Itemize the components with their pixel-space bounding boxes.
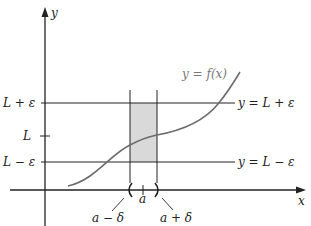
curve-label: y = f(x): [181, 67, 227, 81]
x-mark-label-a: a: [139, 192, 146, 206]
line-label-L-minus-epsilon: y = L − ε: [237, 155, 295, 169]
y-tick-label-L-minus-epsilon: L − ε: [2, 155, 35, 169]
y-tick-label-L: L: [22, 129, 31, 143]
y-axis-arrow-icon: [42, 7, 49, 17]
y-tick-label-L-plus-epsilon: L + ε: [2, 96, 35, 110]
y-axis-label: y: [50, 6, 58, 20]
x-mark-label-a-minus-delta: a − δ: [92, 211, 124, 225]
x-mark-label-a-plus-delta: a + δ: [160, 211, 192, 225]
shaded-region: [130, 103, 157, 162]
epsilon-delta-diagram: y x x y = f(x) L + ε L L − ε y = L + ε y…: [0, 0, 311, 226]
line-label-L-plus-epsilon: y = L + ε: [237, 96, 295, 110]
leader-a-plus-delta: [162, 198, 173, 210]
x-axis-arrow-icon: [296, 187, 306, 194]
x-axis-label: x: [298, 194, 305, 208]
leader-a-minus-delta: [112, 198, 124, 211]
